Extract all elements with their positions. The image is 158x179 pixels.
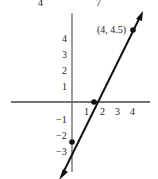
fragment-left: 4 <box>38 0 43 8</box>
x-tick-3: 3 <box>115 106 120 117</box>
y-tick-2: 2 <box>62 65 67 76</box>
y-tick-3: 3 <box>62 49 67 60</box>
point-y-intercept <box>69 139 75 145</box>
x-tick-4: 4 <box>130 106 135 117</box>
y-tick-neg2: −2 <box>56 130 67 141</box>
point-4-4.5 <box>130 27 136 33</box>
graph: 4 7 1 2 3 4 4 3 2 1 −1 −2 −3 (4, 4.5) <box>0 0 158 179</box>
point-label: (4, 4.5) <box>97 24 126 36</box>
x-tick-1: 1 <box>84 106 89 117</box>
fragment-right: 7 <box>96 0 101 8</box>
y-tick-4: 4 <box>62 33 67 44</box>
arrow-down-icon <box>59 169 68 179</box>
x-tick-2: 2 <box>100 106 105 117</box>
y-tick-1: 1 <box>62 81 67 92</box>
y-tick-neg1: −1 <box>56 114 67 125</box>
plot-line <box>63 17 140 173</box>
y-tick-neg3: −3 <box>56 146 67 157</box>
point-x-intercept <box>91 99 97 105</box>
arrow-up-icon <box>136 11 143 21</box>
